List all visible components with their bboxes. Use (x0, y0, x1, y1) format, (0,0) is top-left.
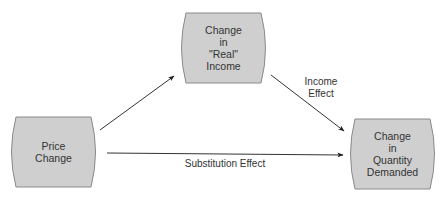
arrow-price-to-quantity (107, 153, 343, 155)
node-real-income: Change in "Real" Income (180, 13, 267, 83)
edge-label-substitution-effect: Substitution Effect (170, 158, 280, 170)
edge-label-income-effect: Income Effect (296, 76, 346, 100)
arrow-price-to-income (100, 76, 174, 130)
node-price-change: Price Change (10, 117, 97, 187)
node-quantity-demanded: Change in Quantity Demanded (349, 119, 436, 189)
